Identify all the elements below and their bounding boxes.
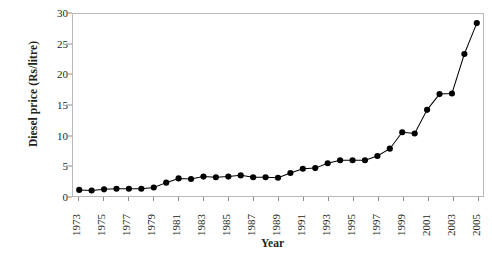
data-point-marker [337, 157, 343, 163]
y-tick-label: 10 [40, 130, 68, 141]
x-tick-label: 1973 [71, 214, 82, 236]
data-point-marker [287, 170, 293, 176]
data-point-marker [412, 130, 418, 136]
data-point-marker [387, 146, 393, 152]
x-tick-label: 2005 [471, 214, 482, 236]
y-axis-tick-labels: 051015202530 [40, 13, 68, 197]
y-axis-title: Diesel price (Rs/litre) [27, 0, 39, 189]
x-tick-label: 1989 [271, 214, 282, 236]
data-point-marker [275, 175, 281, 181]
data-point-marker [250, 174, 256, 180]
x-tick-label: 1985 [221, 214, 232, 236]
x-tick-label: 1991 [296, 214, 307, 236]
x-tick-label: 1983 [196, 214, 207, 236]
data-point-marker [101, 186, 107, 192]
data-point-marker [151, 184, 157, 190]
data-point-marker [163, 180, 169, 186]
y-tick-label: 5 [40, 161, 68, 172]
data-point-marker [325, 160, 331, 166]
plot-area [72, 13, 484, 197]
data-point-marker [238, 172, 244, 178]
data-point-marker [349, 157, 355, 163]
data-point-marker [362, 157, 368, 163]
y-tick-label: 15 [40, 100, 68, 111]
x-axis-tick-labels: 1973197519771979198119831985198719891991… [72, 200, 484, 236]
data-point-marker [126, 186, 132, 192]
data-point-marker [436, 91, 442, 97]
data-point-marker [176, 175, 182, 181]
x-tick-label: 1993 [321, 214, 332, 236]
x-tick-label: 1977 [121, 214, 132, 236]
x-tick-label: 2003 [446, 214, 457, 236]
x-axis-title: Year [55, 237, 490, 249]
x-tick-label: 1999 [396, 214, 407, 236]
data-point-marker [138, 186, 144, 192]
x-tick-label: 1981 [171, 214, 182, 236]
x-tick-label: 1979 [146, 214, 157, 236]
data-point-marker [374, 153, 380, 159]
data-point-marker [113, 186, 119, 192]
data-point-marker [213, 174, 219, 180]
data-point-marker [474, 20, 480, 26]
x-tick-label: 1995 [346, 214, 357, 236]
y-tick-label: 30 [40, 8, 68, 19]
x-tick-label: 1987 [246, 214, 257, 236]
x-tick-label: 1975 [96, 214, 107, 236]
series-line [79, 23, 477, 190]
data-point-marker [399, 129, 405, 135]
x-tick-label: 1997 [371, 214, 382, 236]
y-tick-label: 0 [40, 192, 68, 203]
data-point-marker [262, 174, 268, 180]
data-series-diesel-price [73, 14, 483, 196]
data-point-marker [312, 165, 318, 171]
y-tick-label: 25 [40, 38, 68, 49]
data-point-marker [449, 90, 455, 96]
data-point-marker [76, 187, 82, 193]
data-point-marker [188, 176, 194, 182]
x-tick-label: 2001 [421, 214, 432, 236]
diesel-price-line-chart: Diesel price (Rs/litre) 051015202530 197… [0, 0, 492, 257]
y-tick-label: 20 [40, 69, 68, 80]
data-point-marker [225, 174, 231, 180]
data-point-marker [461, 51, 467, 57]
data-point-marker [424, 107, 430, 113]
data-point-marker [89, 187, 95, 193]
data-point-marker [300, 166, 306, 172]
data-point-marker [200, 174, 206, 180]
